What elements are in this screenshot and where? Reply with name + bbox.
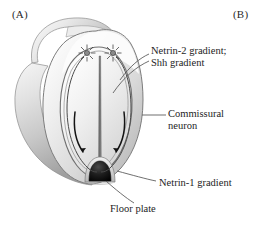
central-canal-lumen [99, 56, 102, 158]
panel-label-b: (B) [233, 8, 248, 20]
commissural-neuron-star-right [105, 45, 122, 62]
label-floor-plate: Floor plate [110, 203, 156, 215]
leader-floorplate [106, 181, 134, 203]
panel-label-a: (A) [12, 8, 28, 20]
label-commissural-line1: Commissural [168, 108, 224, 119]
commissural-neuron-star-left [79, 45, 96, 62]
label-commissural-line2: neuron [168, 120, 224, 132]
label-netrin2-shh-gradient: Netrin-2 gradient; Shh gradient [151, 45, 227, 68]
figure-canvas: (A) (B) Netrin-2 gradient; Shh gradient … [0, 0, 254, 225]
label-netrin2-line1: Netrin-2 gradient; [151, 45, 227, 56]
label-commissural-neuron: Commissural neuron [168, 108, 224, 131]
label-netrin1-gradient: Netrin-1 gradient [159, 177, 232, 189]
label-shh-line2: Shh gradient [151, 57, 227, 69]
leader-netrin1 [117, 171, 156, 181]
